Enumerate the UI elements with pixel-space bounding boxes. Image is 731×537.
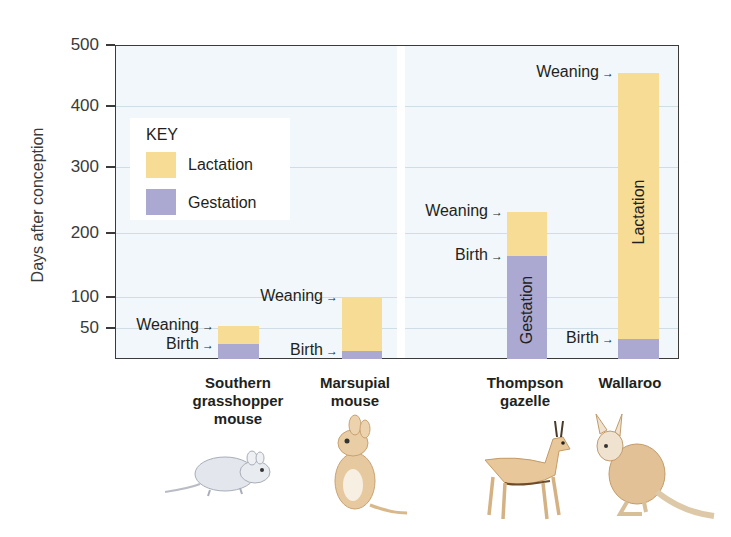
bar-marsupial-mouse-lactation [342, 297, 382, 351]
bar-wallaroo-gestation [618, 339, 659, 359]
arrow-icon: → [326, 290, 338, 304]
bar-label-lactation: Lactation [630, 180, 648, 245]
annotation-birth-grasshopper-mouse: Birth→ [166, 335, 214, 354]
tick-50 [106, 327, 115, 329]
annotation-weaning-wallaroo: Weaning→ [536, 63, 614, 82]
bar-label-gestation: Gestation [518, 276, 536, 344]
arrow-icon: → [202, 319, 214, 333]
thompson-gazelle-illustration [475, 415, 580, 525]
category-label-wallaroo: Wallaroo [585, 374, 675, 392]
arrow-icon: → [202, 338, 214, 352]
arrow-icon: → [602, 332, 614, 346]
tick-label-500: 500 [71, 36, 99, 54]
tick-label-200: 200 [71, 224, 99, 242]
category-label-thompson-gazelle: Thompson gazelle [470, 374, 580, 410]
legend-swatch-gestation [146, 189, 176, 215]
legend-label-gestation: Gestation [188, 194, 256, 212]
bar-gazelle-lactation [507, 212, 547, 256]
tick-label-300: 300 [71, 158, 99, 176]
bar-grasshopper-mouse-lactation [218, 326, 259, 344]
y-axis-title: Days after conception [29, 128, 47, 283]
arrow-icon: → [491, 205, 503, 219]
category-label-marsupial-mouse: Marsupial mouse [300, 374, 410, 410]
tick-label-50: 50 [80, 319, 99, 337]
tick-100 [106, 296, 115, 298]
marsupial-mouse-illustration [325, 413, 410, 518]
bar-grasshopper-mouse-gestation [218, 344, 259, 359]
tick-300 [106, 166, 115, 168]
bar-marsupial-mouse-gestation [342, 351, 382, 359]
arrow-icon: → [602, 66, 614, 80]
annotation-birth-wallaroo: Birth→ [566, 329, 614, 348]
annotation-weaning-gazelle: Weaning→ [425, 202, 503, 221]
tick-label-100: 100 [71, 288, 99, 306]
arrow-icon: → [326, 344, 338, 358]
annotation-birth-marsupial-mouse: Birth→ [290, 341, 338, 360]
legend-label-lactation: Lactation [188, 156, 253, 174]
tick-label-400: 400 [71, 97, 99, 115]
category-label-grasshopper-mouse: Southern grasshopper mouse [168, 374, 308, 428]
legend-swatch-lactation [146, 152, 176, 178]
tick-400 [106, 105, 115, 107]
legend-title: KEY [146, 126, 178, 144]
axis-break [397, 46, 405, 358]
arrow-icon: → [491, 249, 503, 263]
grasshopper-mouse-illustration [160, 440, 285, 500]
tick-200 [106, 232, 115, 234]
legend: KEY Lactation Gestation [130, 118, 290, 220]
tick-500 [106, 44, 115, 46]
annotation-birth-gazelle: Birth→ [455, 246, 503, 265]
annotation-weaning-grasshopper-mouse: Weaning→ [136, 316, 214, 335]
wallaroo-illustration [582, 412, 717, 522]
annotation-weaning-marsupial-mouse: Weaning→ [260, 287, 338, 306]
